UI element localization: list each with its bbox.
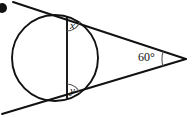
upper-tangent-line (13, 2, 186, 59)
angle-arc-apex (162, 51, 163, 66)
lower-tangent-line (2, 59, 186, 114)
angle-label-y: y (70, 85, 75, 96)
geometry-figure: x y 60° (0, 0, 193, 117)
angle-label-x: x (70, 20, 75, 31)
figure-canvas (0, 0, 193, 117)
corner-bullet-icon (0, 3, 7, 13)
angle-label-apex: 60° (138, 51, 155, 63)
circle-shape (12, 15, 98, 101)
